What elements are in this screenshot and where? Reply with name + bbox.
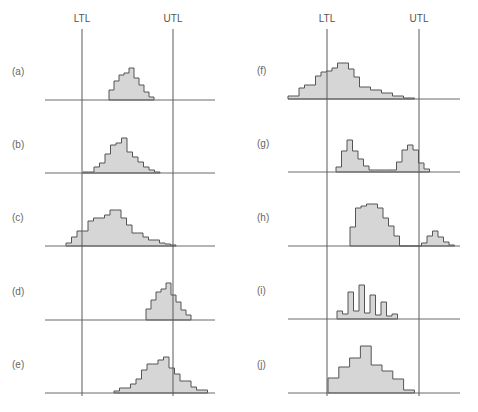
utl-label: UTL (410, 13, 429, 24)
case-label: (b) (12, 139, 24, 150)
utl-label: UTL (164, 13, 183, 24)
case-label: (g) (257, 138, 269, 149)
case-label: (h) (257, 212, 269, 223)
case-label: (i) (257, 285, 266, 296)
case-label: (d) (12, 286, 24, 297)
case-label: (e) (12, 359, 24, 370)
histogram-a (109, 68, 154, 100)
ltl-label: LTL (74, 13, 91, 24)
histogram-g (336, 140, 430, 172)
case-label: (f) (257, 65, 266, 76)
case-label: (a) (12, 66, 24, 77)
case-label: (c) (12, 212, 24, 223)
histogram-e (114, 357, 208, 393)
ltl-label: LTL (319, 13, 336, 24)
histogram-i (337, 285, 398, 319)
histogram-f (288, 63, 415, 99)
histogram-d (146, 283, 191, 320)
histogram-h (350, 204, 455, 246)
case-label: (j) (257, 359, 266, 370)
histogram-figure: LTLUTL(a)(b)(c)(d)(e)LTLUTL(f)(g)(h)(i)(… (0, 0, 478, 412)
histogram-b (83, 138, 160, 173)
histogram-j (328, 346, 414, 393)
